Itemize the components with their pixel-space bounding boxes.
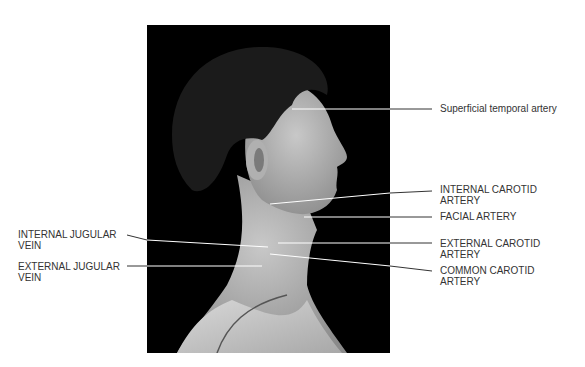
- label-common-carotid-artery: COMMON CAROTID ARTERY: [440, 265, 534, 287]
- label-internal-carotid-artery: INTERNAL CAROTID ARTERY: [440, 184, 537, 206]
- label-external-jugular-vein: EXTERNAL JUGULAR VEIN: [18, 261, 120, 283]
- label-facial-artery: FACIAL ARTERY: [440, 211, 517, 222]
- leader-common-carotid: [270, 254, 390, 266]
- label-external-carotid-artery: EXTERNAL CAROTID ARTERY: [440, 238, 540, 260]
- label-internal-jugular-vein: INTERNAL JUGULAR VEIN: [18, 229, 117, 251]
- leader-internal-jugular-photo: [147, 240, 268, 247]
- label-superficial-temporal-artery: Superficial temporal artery: [440, 103, 557, 114]
- leader-internal-carotid: [270, 193, 390, 204]
